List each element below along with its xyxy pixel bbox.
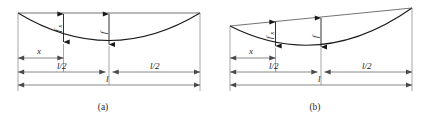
panel-a-caption: (a) — [98, 102, 109, 113]
panel-a-sag-x-label-sub: x — [57, 24, 63, 28]
panel-b-sag-x-label-sub: x — [269, 31, 275, 35]
panel-a-sag-mid-label-group: f — [98, 30, 108, 34]
panel-a-sag-x-label: f — [52, 28, 62, 32]
panel-b-dim-x-label: x — [248, 46, 253, 56]
panel-b-sag-mid-label-group: f — [310, 34, 320, 38]
panel-b-dim-halfspan-left-label: l/2 — [269, 61, 279, 71]
panel-a-dim-x-label: x — [36, 46, 41, 56]
panel-b-caption: (b) — [309, 102, 320, 113]
figure-root: f x f x l/2 l/2 l (a) — [0, 0, 425, 123]
panel-b-sag-mid-label: f — [310, 34, 320, 38]
panel-a-dim-span-label: l — [106, 74, 109, 84]
panel-a-sag-x-label-group: f x — [52, 24, 63, 32]
panel-b: f x f x l/2 l/2 l (b) — [230, 8, 412, 113]
panel-a-dim-halfspan-right-label: l/2 — [150, 61, 160, 71]
panel-a: f x f x l/2 l/2 l (a) — [18, 13, 200, 113]
panel-a-sag-mid-label: f — [98, 30, 108, 34]
panel-b-dim-halfspan-right-label: l/2 — [362, 61, 372, 71]
engineering-diagram-svg: f x f x l/2 l/2 l (a) — [0, 0, 425, 123]
panel-b-dim-span-label: l — [318, 74, 321, 84]
panel-a-dim-halfspan-left-label: l/2 — [57, 61, 67, 71]
panel-b-sag-x-label: f — [264, 35, 274, 39]
panel-b-sag-x-label-group: f x — [264, 31, 275, 39]
